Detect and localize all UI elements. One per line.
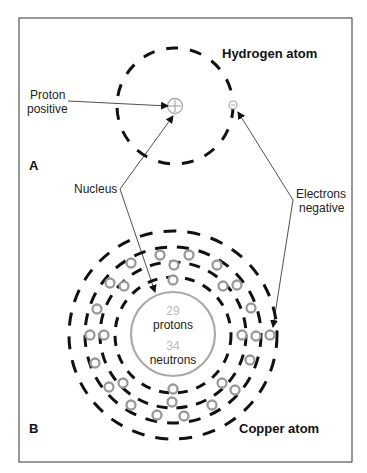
atom-diagram: Hydrogen atom Proton positive A Nucleus … xyxy=(0,0,367,473)
electron-icon xyxy=(229,101,237,109)
copper-atom xyxy=(69,231,277,439)
hydrogen-atom xyxy=(117,48,237,164)
electron-arrow-hydrogen xyxy=(238,112,293,200)
protons-label: protons xyxy=(153,318,193,332)
electron-arrow-copper xyxy=(273,200,293,327)
proton-icon xyxy=(168,99,183,114)
nucleus-arrow-hydrogen xyxy=(120,116,173,189)
electrons-label: Electrons xyxy=(296,187,346,201)
hydrogen-title: Hydrogen atom xyxy=(222,46,317,61)
nucleus-label: Nucleus xyxy=(74,182,117,196)
proton-label-positive: positive xyxy=(27,102,68,116)
copper-title: Copper atom xyxy=(239,421,319,436)
proton-arrow xyxy=(68,101,168,106)
panel-b-letter: B xyxy=(29,421,38,436)
proton-label: Proton xyxy=(30,88,65,102)
neutrons-count: 34 xyxy=(166,339,180,353)
nucleus-arrow-copper xyxy=(120,189,155,292)
protons-count: 29 xyxy=(166,304,180,318)
panel-a-letter: A xyxy=(29,158,39,173)
electrons-label-negative: negative xyxy=(299,201,345,215)
neutrons-label: neutrons xyxy=(150,353,197,367)
figure-frame xyxy=(19,18,352,462)
